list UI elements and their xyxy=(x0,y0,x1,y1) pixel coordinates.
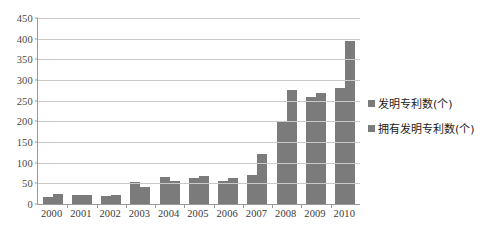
y-axis-tick-mark xyxy=(35,142,38,143)
x-axis-tick-label: 2005 xyxy=(183,208,212,219)
x-axis-tick-label: 2003 xyxy=(125,208,154,219)
bar xyxy=(130,182,140,204)
x-axis-tick-label: 2008 xyxy=(271,208,300,219)
y-axis-tick-label: 150 xyxy=(17,137,33,148)
bar-group xyxy=(331,18,360,204)
y-axis-tick-label: 100 xyxy=(17,157,33,168)
bar-group xyxy=(38,18,67,204)
bar-group xyxy=(184,18,213,204)
gridline xyxy=(38,163,360,164)
bar xyxy=(53,194,63,204)
bar-series-container xyxy=(38,18,360,204)
y-axis-tick-mark xyxy=(35,121,38,122)
bar xyxy=(199,176,209,204)
gridline xyxy=(38,183,360,184)
gridline xyxy=(38,39,360,40)
x-axis-tick-label: 2007 xyxy=(242,208,271,219)
gridline xyxy=(38,80,360,81)
bar xyxy=(306,97,316,204)
y-axis-tick-mark xyxy=(35,183,38,184)
y-axis-tick-mark xyxy=(35,18,38,19)
x-axis-tick-label: 2004 xyxy=(154,208,183,219)
bar xyxy=(111,195,121,205)
bar xyxy=(101,196,111,204)
bar xyxy=(316,93,326,204)
bar-group xyxy=(155,18,184,204)
bar xyxy=(287,90,297,204)
chart-legend: 发明专利数(个)拥有发明专利数(个) xyxy=(368,95,475,136)
gridline xyxy=(38,18,360,19)
y-axis-tick-label: 400 xyxy=(17,33,33,44)
square-marker xyxy=(368,125,375,132)
plot-area: 450400350300250200150100500 xyxy=(37,18,360,205)
bar-group xyxy=(214,18,243,204)
bar xyxy=(335,88,345,204)
bar-group xyxy=(272,18,301,204)
legend-item[interactable]: 发明专利数(个) xyxy=(368,95,475,111)
y-axis-tick-label: 250 xyxy=(17,95,33,106)
y-axis-tick-label: 300 xyxy=(17,75,33,86)
y-axis-tick-label: 350 xyxy=(17,54,33,65)
bar-group xyxy=(126,18,155,204)
bar xyxy=(228,178,238,204)
bar xyxy=(247,175,257,204)
y-axis-tick-mark xyxy=(35,204,38,205)
bar-group xyxy=(97,18,126,204)
x-axis-labels: 2000200120022003200420052006200720082009… xyxy=(37,208,359,219)
bar-group xyxy=(243,18,272,204)
gridline xyxy=(38,142,360,143)
y-axis-tick-mark xyxy=(35,100,38,101)
x-axis-tick-label: 2000 xyxy=(37,208,66,219)
x-axis-tick-label: 2010 xyxy=(330,208,359,219)
legend-item[interactable]: 拥有发明专利数(个) xyxy=(368,120,475,136)
bar xyxy=(189,178,199,204)
y-axis-tick-mark xyxy=(35,162,38,163)
y-axis-tick-mark xyxy=(35,38,38,39)
y-axis-tick-mark xyxy=(35,59,38,60)
gridline xyxy=(38,101,360,102)
x-axis-tick-label: 2009 xyxy=(300,208,329,219)
legend-item-label: 拥有发明专利数(个) xyxy=(378,120,475,136)
x-axis-tick-label: 2006 xyxy=(213,208,242,219)
bar xyxy=(82,195,92,204)
legend-item-label: 发明专利数(个) xyxy=(378,95,453,111)
y-axis-tick-label: 50 xyxy=(22,178,33,189)
bar xyxy=(160,177,170,204)
y-axis-tick-label: 0 xyxy=(28,199,33,210)
gridline xyxy=(38,121,360,122)
bar xyxy=(218,181,228,204)
bar-chart: 450400350300250200150100500 200020012002… xyxy=(0,0,494,241)
y-axis-tick-label: 200 xyxy=(17,116,33,127)
bar xyxy=(43,197,53,204)
y-axis-tick-label: 450 xyxy=(17,13,33,24)
gridline xyxy=(38,59,360,60)
bar xyxy=(72,195,82,204)
bar-group xyxy=(67,18,96,204)
square-marker xyxy=(368,100,375,107)
bar xyxy=(345,41,355,204)
x-axis-tick-label: 2002 xyxy=(96,208,125,219)
bar xyxy=(140,187,150,204)
x-axis-tick-label: 2001 xyxy=(66,208,95,219)
bar-group xyxy=(301,18,330,204)
bar xyxy=(170,181,180,204)
y-axis-tick-mark xyxy=(35,80,38,81)
